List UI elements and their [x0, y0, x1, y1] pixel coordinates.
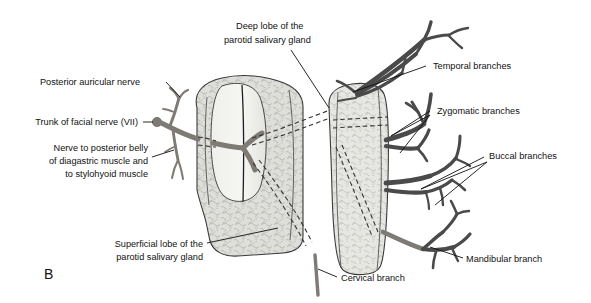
temporal-branch-1	[357, 40, 424, 92]
panel-letter: B	[44, 266, 53, 282]
label-deep-lobe: Deep lobe of the parotid salivary gland	[224, 21, 311, 45]
leader-nerve-digastric	[152, 150, 174, 157]
facial-nerve-trunk	[159, 122, 198, 139]
label-deep-lobe-line1: Deep lobe of the	[236, 21, 303, 31]
label-superficial-lobe-line2: parotid salivary gland	[116, 252, 203, 262]
parotid-gland-facial-nerve-figure: Deep lobe of the parotid salivary gland …	[0, 0, 591, 303]
leader-cervical	[318, 269, 337, 277]
mandibular-branch-group	[383, 201, 470, 268]
label-zygomatic-branches: Zygomatic branches	[437, 106, 520, 116]
buccal-branch-2	[386, 190, 426, 193]
label-nerve-digastric-line2: of diagastric muscle and	[49, 156, 148, 166]
label-deep-lobe-line2: parotid salivary gland	[224, 35, 311, 45]
label-nerve-digastric-line3: to stylohyoid muscle	[65, 169, 148, 179]
zygomatic-branch-1	[386, 124, 424, 140]
mandibular-branch-main	[383, 232, 423, 249]
label-temporal-branches: Temporal branches	[433, 61, 512, 71]
nerve-to-digastric-stylohyoid	[173, 129, 178, 160]
zygomatic-branches-group	[386, 94, 431, 161]
label-nerve-digastric-line1: Nerve to posterior belly	[54, 143, 149, 153]
label-mandibular-branch: Mandibular branch	[466, 254, 542, 264]
label-trunk-of-facial-nerve: Trunk of facial nerve (VII)	[35, 117, 138, 127]
leader-posterior-auricular	[166, 82, 180, 97]
label-buccal-branches: Buccal branches	[489, 151, 557, 161]
cervical-branch-group	[315, 255, 318, 295]
anatomical-illustration: Deep lobe of the parotid salivary gland …	[0, 0, 591, 303]
label-nerve-to-digastric: Nerve to posterior belly of diagastric m…	[49, 143, 148, 179]
label-superficial-lobe: Superficial lobe of the parotid salivary…	[115, 239, 203, 262]
label-cervical-branch: Cervical branch	[341, 273, 405, 283]
buccal-branch-1	[386, 176, 430, 183]
label-superficial-lobe-line1: Superficial lobe of the	[115, 239, 203, 249]
superficial-lobe-shape	[196, 76, 303, 257]
deep-lobe-shape	[329, 83, 388, 274]
facial-nerve-trunk-group	[152, 88, 198, 179]
label-posterior-auricular-nerve: Posterior auricular nerve	[40, 77, 140, 87]
zygomatic-branch-2	[386, 146, 418, 149]
cervical-branch	[315, 255, 318, 295]
